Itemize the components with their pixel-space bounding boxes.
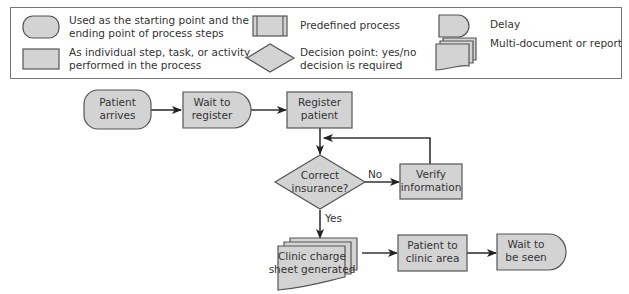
legend-text: Used as the starting point and the (69, 14, 249, 26)
node-label: Clinic charge (278, 250, 346, 262)
node-label: Verify (416, 168, 446, 180)
node-wait-to-be-seen[interactable]: Wait to be seen (497, 234, 566, 270)
node-correct-insurance-decision[interactable]: Correct insurance? (275, 155, 365, 209)
legend-text: Multi-document or report (490, 37, 622, 49)
edge-label-yes: Yes (324, 212, 342, 224)
node-label: Patient (99, 96, 136, 108)
legend-text: decision is required (300, 59, 402, 71)
delay-symbol (439, 15, 469, 37)
node-label: patient (301, 109, 338, 121)
node-label: Register (298, 96, 342, 108)
node-label: insurance? (292, 182, 349, 194)
process-symbol (23, 49, 59, 69)
node-label: Correct (301, 169, 339, 181)
node-label: be seen (505, 251, 547, 263)
node-label: Wait to (193, 96, 230, 108)
node-label: information (401, 181, 462, 193)
legend: Used as the starting point and the endin… (11, 8, 622, 79)
node-patient-arrives[interactable]: Patient arrives (84, 90, 151, 129)
terminator-symbol (23, 16, 59, 38)
node-verify-information[interactable]: Verify information (400, 164, 462, 199)
node-wait-to-register[interactable]: Wait to register (183, 92, 251, 128)
arrow-verify-loop-back (324, 138, 430, 164)
edge-label-no: No (368, 168, 382, 180)
node-label: Patient to (407, 239, 457, 251)
legend-text: ending point of process steps (69, 27, 224, 39)
flowchart-canvas: Used as the starting point and the endin… (0, 0, 629, 294)
predefined-process-symbol (253, 16, 287, 36)
node-label: clinic area (406, 252, 460, 264)
node-clinic-charge-sheet[interactable]: Clinic charge sheet generated (269, 238, 357, 290)
node-register-patient[interactable]: Register patient (287, 92, 352, 128)
legend-text: As individual step, task, or activity (69, 46, 250, 58)
legend-text: performed in the process (69, 59, 201, 71)
legend-text: Predefined process (300, 19, 400, 31)
node-patient-to-clinic-area[interactable]: Patient to clinic area (398, 235, 467, 271)
node-label: arrives (100, 109, 136, 121)
node-label: Wait to (507, 238, 544, 250)
node-label: sheet generated (269, 263, 356, 275)
legend-text: Decision point: yes/no (300, 46, 416, 58)
legend-text: Delay (490, 18, 520, 30)
node-label: register (192, 109, 233, 121)
